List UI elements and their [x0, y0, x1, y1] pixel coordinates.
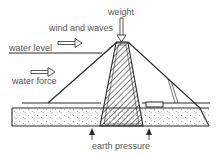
dam-force-diagram: weight wind and waves water level water …: [0, 0, 222, 156]
label-wind-and-waves: wind and waves: [48, 23, 114, 33]
label-weight: weight: [107, 7, 135, 17]
label-earth-pressure: earth pressure: [92, 141, 150, 151]
label-water-level: water level: [8, 43, 52, 53]
earth-pressure-arrow-left-icon: [89, 128, 95, 140]
drain-block: [146, 102, 163, 107]
dam-core: [100, 43, 143, 126]
earth-pressure-arrow-right-icon: [146, 128, 152, 140]
wind-arrow-icon: [58, 39, 82, 48]
weight-arrow-icon: [117, 18, 126, 42]
label-water-force: water force: [11, 76, 57, 86]
